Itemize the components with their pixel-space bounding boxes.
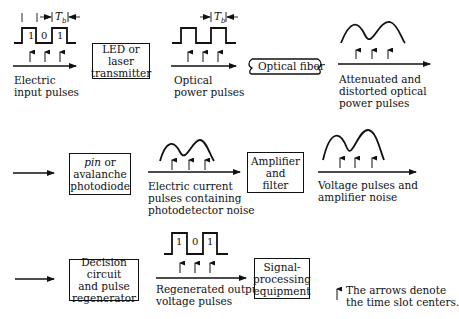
transmitter-block: LED or laser transmitter [92, 43, 150, 79]
attenuated-caption: Attenuated and distorted optical power p… [339, 73, 427, 109]
photodiode-block: pin or avalanche photodiode [69, 153, 131, 195]
regen-bit-2: 0 [192, 236, 198, 248]
attenuated-waveform [341, 22, 405, 43]
input-bit-3: 1 [57, 30, 63, 42]
amplifier-block: Amplifier and filter [247, 152, 304, 193]
voltage-slot-arrows [340, 158, 372, 168]
optical-slot-arrows [188, 52, 218, 62]
attenuated-slot-arrows [356, 50, 388, 59]
input-bit-1: 1 [28, 30, 34, 42]
optical-pulse-waveform [172, 12, 238, 43]
current-pulses-caption: Electric current pulses containing photo… [148, 180, 255, 216]
input-period-label: Tb [55, 10, 67, 27]
optical-fiber-label: Optical fiber [258, 60, 325, 72]
voltage-pulses-caption: Voltage pulses and amplifier noise [318, 179, 418, 203]
regen-bit-1: 1 [176, 236, 182, 248]
regen-bit-3: 1 [207, 236, 213, 248]
input-pulses-caption: Electric input pulses [14, 74, 79, 98]
optical-period-label: Tb [214, 10, 226, 27]
current-waveform [160, 140, 214, 161]
regenerated-caption: Regenerated output voltage pulses [156, 283, 263, 307]
decision-circuit-block: Decision circuit and pulse regenerator [69, 259, 139, 301]
optical-pulses-caption: Optical power pulses [174, 74, 244, 98]
current-slot-arrows [172, 160, 205, 170]
voltage-waveform [323, 130, 384, 160]
input-bit-2: 0 [41, 30, 47, 42]
signal-processing-block: Signal- processing equipment [254, 258, 310, 299]
legend-text: The arrows denote the time slot centers. [346, 284, 459, 308]
regenerated-slot-arrows [180, 263, 210, 273]
input-slot-arrows [30, 52, 60, 62]
